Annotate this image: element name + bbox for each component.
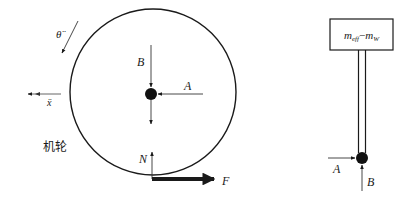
force-label-f: F [221, 174, 230, 188]
force-label-b-wheel: B [137, 55, 145, 69]
angular-accel-arrow [62, 21, 78, 53]
angular-accel-label: θ̈ [56, 28, 66, 40]
force-label-a-strut: A [332, 162, 341, 176]
force-label-n: N [138, 152, 148, 166]
wheel-group: B A N F θ̈ ẍ 机轮 [28, 9, 236, 188]
wheel-name-label: 机轮 [43, 140, 67, 154]
linear-accel-label: ẍ [46, 97, 52, 108]
strut-group: meff−mW A B [328, 19, 393, 191]
force-label-b-strut: B [367, 175, 375, 189]
force-label-a-wheel: A [183, 79, 192, 93]
free-body-diagram: B A N F θ̈ ẍ 机轮 meff−mW A [0, 0, 401, 200]
strut-axle [356, 152, 368, 164]
linear-accel-second-head [35, 92, 40, 96]
wheel-hub [145, 88, 157, 100]
